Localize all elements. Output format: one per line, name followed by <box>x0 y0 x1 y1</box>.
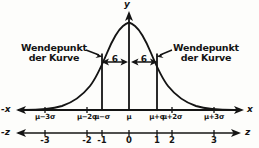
x-tick-label: μ+2σ <box>162 114 182 121</box>
figure-drawing-canvas <box>0 0 259 148</box>
x-tick-label: μ <box>127 114 132 121</box>
z-tick-label: 1 <box>154 136 160 145</box>
sigma-label-left: 6 <box>112 55 118 64</box>
z-tick-label: -2 <box>82 136 91 145</box>
x-tick-label: μ−3σ <box>35 114 55 121</box>
z-tick-label: -1 <box>97 136 106 145</box>
z-tick-label: 3 <box>211 136 217 145</box>
annotation-right-line2: der Kurve <box>168 53 244 63</box>
inflection-point-annotation-right: Wendepunkt der Kurve <box>168 43 244 63</box>
z-tick-label: -3 <box>40 136 49 145</box>
z-tick-label: 2 <box>169 136 175 145</box>
x-tick-label: μ+3σ <box>204 114 224 121</box>
annotation-left-line2: der Kurve <box>18 53 90 63</box>
z-axis-label-right: z <box>245 128 250 137</box>
z-tick-label: 0 <box>126 136 132 145</box>
x-axis-label-right: x <box>247 105 253 114</box>
sigma-label-right: 6 <box>141 55 147 64</box>
x-tick-label: μ−σ <box>94 114 110 121</box>
inflection-point-annotation-left: Wendepunkt der Kurve <box>18 43 90 63</box>
z-axis-label-left: -z <box>1 128 10 137</box>
y-axis-label: y <box>124 0 130 9</box>
normal-distribution-figure: y Wendepunkt der Kurve Wendepunkt der Ku… <box>0 0 259 148</box>
x-axis-label-left: -x <box>1 105 11 114</box>
